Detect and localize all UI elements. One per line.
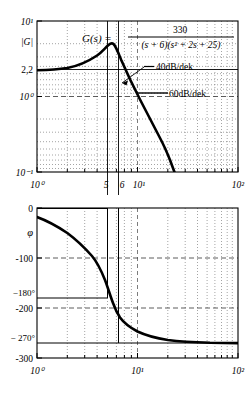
- phase-annotation-180: −180°: [13, 288, 36, 298]
- phase-xtick-10e1: 10¹: [131, 366, 144, 376]
- phase-xtick-10e2: 10²: [232, 366, 245, 376]
- slope-label-60db: 60dB/dek: [169, 89, 206, 99]
- magnitude-xtick-10e0: 10⁰: [30, 180, 45, 190]
- magnitude-xtick-10e1: 10¹: [133, 180, 146, 190]
- magnitude-xtick-10e2: 10²: [232, 180, 245, 190]
- magnitude-ytick-2-2: 2,2: [21, 65, 33, 75]
- magnitude-ytick-10e0: 10⁰: [20, 92, 35, 102]
- bode-plot-svg: 10¹ |G| 2,2 10⁰ 10⁻¹ 10⁰ 5 6 10¹ 10² G(s…: [0, 0, 252, 401]
- phase-axis-label: φ: [27, 227, 33, 238]
- magnitude-ytick-10e1: 10¹: [21, 17, 34, 27]
- phase-ytick-minus200: -200: [16, 304, 34, 314]
- magnitude-axis-label: |G|: [21, 37, 33, 47]
- equation-denominator: (s + 6)(s² + 2s + 25): [141, 40, 220, 51]
- phase-ytick-minus100: -100: [16, 254, 34, 264]
- slope-label-40db: 40dB/dek: [156, 62, 193, 72]
- phase-xtick-10e0: 10⁰: [30, 366, 45, 376]
- magnitude-xtick-6: 6: [120, 180, 125, 190]
- magnitude-ytick-10e-1: 10⁻¹: [16, 168, 34, 178]
- equation-numerator: 330: [173, 25, 188, 35]
- figure-background: [0, 0, 252, 401]
- magnitude-xtick-5: 5: [104, 180, 109, 190]
- bode-plot-figure: 10¹ |G| 2,2 10⁰ 10⁻¹ 10⁰ 5 6 10¹ 10² G(s…: [0, 0, 252, 401]
- equation-lhs: G(s) =: [82, 32, 112, 45]
- phase-ytick-minus300: -300: [16, 354, 34, 364]
- phase-ytick-0: 0: [28, 204, 33, 214]
- phase-annotation-270: − 270°: [11, 333, 36, 343]
